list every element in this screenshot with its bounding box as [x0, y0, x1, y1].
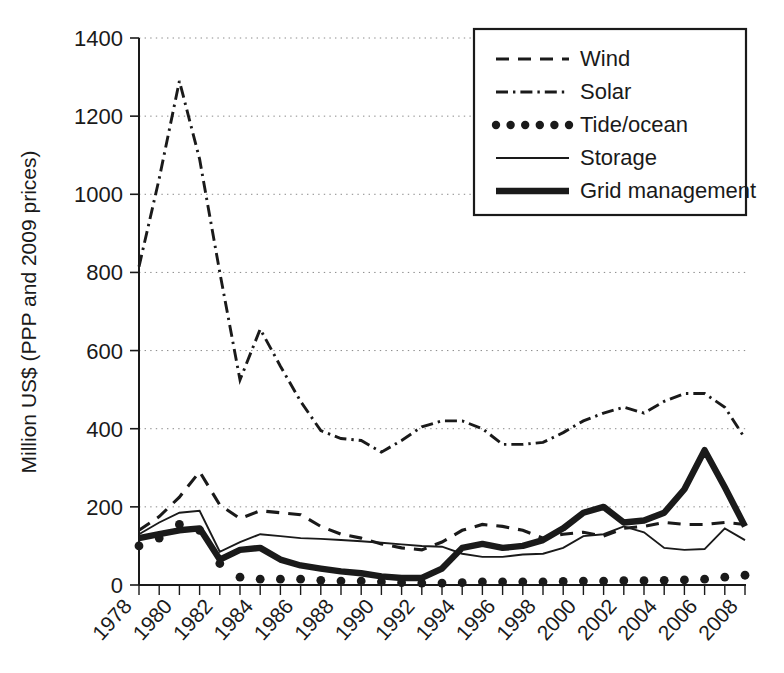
x-axis-tick-labels: 1978198019821984198619881990199219941996…: [88, 594, 742, 644]
data-point: [518, 577, 527, 586]
data-point: [337, 577, 346, 586]
legend-swatch-dot: [492, 121, 500, 129]
legend-label: Wind: [580, 46, 630, 71]
data-point: [680, 576, 689, 585]
line-chart: 0200400600800100012001400 19781980198219…: [0, 0, 784, 673]
x-tick-label: 1978: [88, 594, 136, 644]
data-point: [640, 576, 649, 585]
y-tick-label: 600: [86, 339, 123, 364]
y-tick-label: 800: [86, 260, 123, 285]
x-tick-label: 1980: [128, 594, 176, 644]
series-grid-management: [139, 450, 745, 578]
data-point: [236, 573, 245, 582]
data-point: [559, 577, 568, 586]
data-point: [478, 577, 487, 586]
x-tick-label: 2004: [613, 594, 662, 644]
x-tick-label: 1986: [249, 594, 297, 644]
data-point: [599, 577, 608, 586]
data-point: [135, 542, 144, 551]
x-tick-label: 1984: [209, 594, 258, 644]
series-wind: [139, 472, 745, 550]
chart-legend: WindSolarTide/oceanStorageGrid managemen…: [474, 29, 756, 215]
data-point: [438, 579, 447, 588]
data-point: [316, 576, 325, 585]
x-tick-label: 1996: [451, 594, 499, 644]
data-point: [720, 573, 729, 582]
data-point: [539, 577, 548, 586]
legend-swatch-dot: [565, 121, 573, 129]
x-tick-label: 2000: [532, 594, 580, 644]
legend-swatch-dot: [536, 121, 544, 129]
x-tick-label: 1982: [168, 594, 216, 644]
x-tick-label: 1992: [370, 594, 418, 644]
data-point: [357, 577, 366, 586]
data-point: [741, 571, 750, 580]
legend-swatch-dot: [506, 121, 514, 129]
data-point: [619, 576, 628, 585]
y-tick-label: 400: [86, 417, 123, 442]
y-tick-label: 200: [86, 495, 123, 520]
y-axis-title: Million US$ (PPP and 2009 prices): [17, 151, 40, 474]
data-point: [700, 575, 709, 584]
data-point: [498, 577, 507, 586]
y-tick-label: 1000: [74, 182, 123, 207]
legend-label: Grid management: [580, 178, 756, 203]
x-tick-label: 2006: [653, 594, 701, 644]
x-tick-label: 2008: [694, 594, 742, 644]
x-tick-label: 2002: [572, 594, 620, 644]
data-point: [276, 575, 285, 584]
series-line: [139, 450, 745, 578]
y-tick-label: 1200: [74, 104, 123, 129]
legend-swatch-dot: [521, 121, 529, 129]
x-tick-label: 1990: [330, 594, 378, 644]
data-point: [296, 575, 305, 584]
data-point: [458, 578, 467, 587]
x-tick-label: 1998: [492, 594, 540, 644]
data-point: [579, 577, 588, 586]
legend-label: Solar: [580, 79, 631, 104]
y-tick-label: 1400: [74, 26, 123, 51]
legend-swatch-dot: [550, 121, 558, 129]
y-tick-label: 0: [111, 573, 123, 598]
data-point: [256, 575, 265, 584]
y-axis-ticks: [130, 38, 139, 585]
legend-label: Storage: [580, 145, 657, 170]
legend-label: Tide/ocean: [580, 112, 688, 137]
chart-container: 0200400600800100012001400 19781980198219…: [0, 0, 784, 673]
x-tick-label: 1994: [411, 594, 460, 644]
y-axis-tick-labels: 0200400600800100012001400: [74, 26, 123, 598]
data-point: [660, 576, 669, 585]
series-line: [139, 472, 745, 550]
x-tick-label: 1988: [290, 594, 338, 644]
